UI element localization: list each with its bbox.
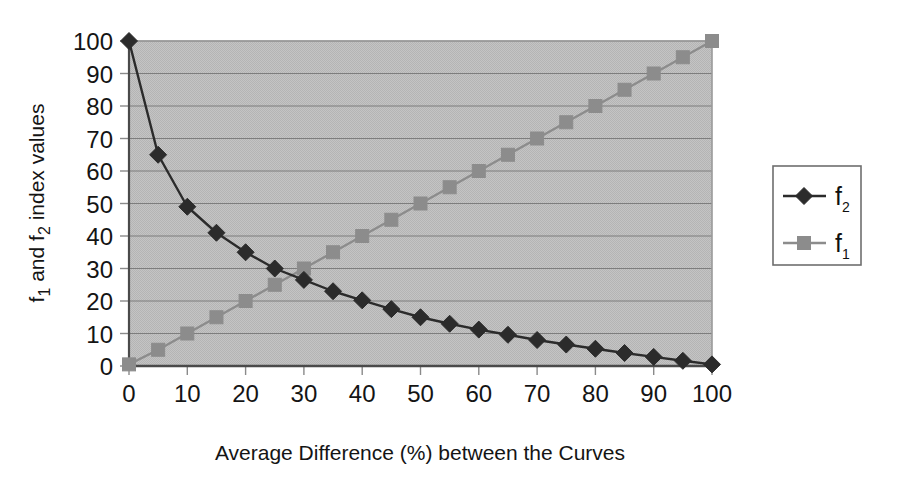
data-point-f1 bbox=[472, 165, 485, 178]
y-tick-label: 100 bbox=[73, 28, 113, 55]
x-axis-title: Average Difference (%) between the Curve… bbox=[215, 441, 625, 464]
data-point-f1 bbox=[501, 148, 514, 161]
y-tick-label: 20 bbox=[86, 288, 113, 315]
data-point-f1 bbox=[181, 327, 194, 340]
data-point-f1 bbox=[676, 51, 689, 64]
chart-figure: 0102030405060708090100 01020304050607080… bbox=[0, 0, 910, 481]
y-tick-label: 90 bbox=[86, 61, 113, 88]
data-point-f1 bbox=[618, 83, 631, 96]
x-tick-label: 100 bbox=[692, 380, 732, 407]
data-point-f1 bbox=[647, 67, 660, 80]
y-axis-title-part2: and f bbox=[25, 235, 48, 288]
y-axis-title-part3: index values bbox=[25, 104, 48, 227]
x-tick-label: 90 bbox=[640, 380, 667, 407]
data-point-f1 bbox=[706, 35, 719, 48]
x-tick-label: 40 bbox=[349, 380, 376, 407]
y-tick-label: 50 bbox=[86, 191, 113, 218]
y-tick-label: 70 bbox=[86, 126, 113, 153]
data-point-f1 bbox=[385, 213, 398, 226]
y-tick-label: 0 bbox=[100, 353, 113, 380]
legend-marker bbox=[798, 237, 811, 250]
x-tick-label: 50 bbox=[407, 380, 434, 407]
data-point-f1 bbox=[152, 343, 165, 356]
data-point-f1 bbox=[531, 132, 544, 145]
x-tick-label: 70 bbox=[524, 380, 551, 407]
data-point-f1 bbox=[414, 197, 427, 210]
data-point-f1 bbox=[356, 230, 369, 243]
x-tick-label: 20 bbox=[232, 380, 259, 407]
x-tick-label: 0 bbox=[122, 380, 135, 407]
y-axis-title-sub2: 2 bbox=[36, 226, 53, 235]
data-point-f1 bbox=[589, 100, 602, 113]
chart-svg: 0102030405060708090100 01020304050607080… bbox=[0, 0, 910, 481]
data-point-f1 bbox=[443, 181, 456, 194]
data-point-f1 bbox=[327, 246, 340, 259]
data-point-f1 bbox=[268, 278, 281, 291]
y-tick-label: 80 bbox=[86, 93, 113, 120]
x-tick-label: 60 bbox=[465, 380, 492, 407]
x-tick-label: 80 bbox=[582, 380, 609, 407]
y-tick-label: 10 bbox=[86, 321, 113, 348]
plot-area bbox=[120, 33, 721, 376]
data-point-f1 bbox=[123, 358, 136, 371]
y-axis-title-sub1: 1 bbox=[36, 288, 53, 297]
x-tick-label: 30 bbox=[291, 380, 318, 407]
x-tick-label: 10 bbox=[174, 380, 201, 407]
legend[interactable]: f2f1 bbox=[773, 166, 861, 265]
y-tick-label: 30 bbox=[86, 256, 113, 283]
data-point-f1 bbox=[560, 116, 573, 129]
data-point-f1 bbox=[210, 311, 223, 324]
data-point-f1 bbox=[239, 295, 252, 308]
y-tick-label: 40 bbox=[86, 223, 113, 250]
y-tick-label: 60 bbox=[86, 158, 113, 185]
